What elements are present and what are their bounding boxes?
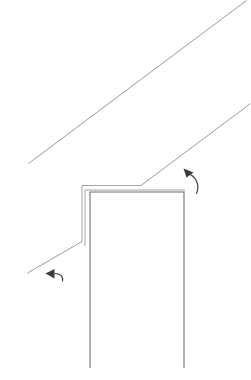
drawing-canvas	[0, 0, 251, 380]
technical-drawing-svg	[0, 0, 251, 380]
